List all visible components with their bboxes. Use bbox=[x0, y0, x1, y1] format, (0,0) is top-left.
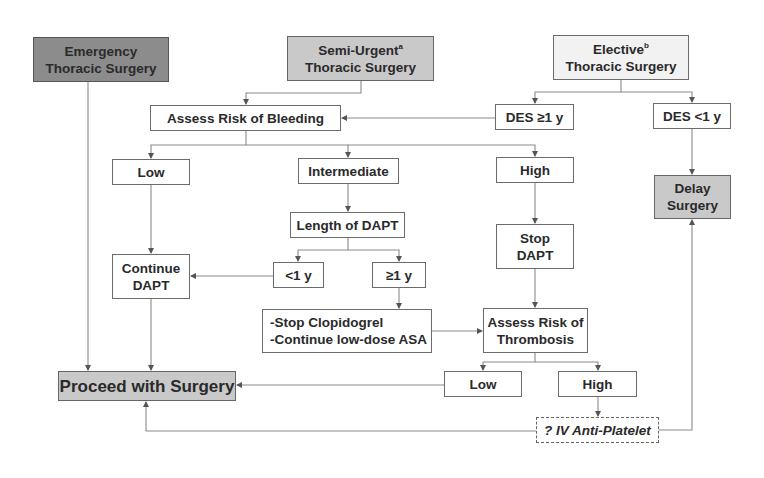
des-lt-1y-node: DES <1 y bbox=[653, 103, 731, 129]
footnote-b: b bbox=[644, 41, 649, 50]
semi-urgent-label: Semi-Urgent bbox=[318, 43, 398, 58]
semi-urgent-line2: Thoracic Surgery bbox=[305, 59, 416, 76]
assess-bleeding-node: Assess Risk of Bleeding bbox=[150, 105, 341, 131]
proceed-surgery-node: Proceed with Surgery bbox=[58, 371, 236, 401]
elective-line1: Electiveb bbox=[593, 41, 649, 58]
thrombosis-high-node: High bbox=[558, 371, 637, 397]
semi-urgent-line1: Semi-Urgenta bbox=[318, 42, 403, 59]
bleeding-low-node: Low bbox=[112, 159, 190, 185]
thrombosis-low-node: Low bbox=[444, 371, 522, 397]
flowchart-canvas: Emergency Thoracic Surgery Semi-Urgenta … bbox=[0, 0, 764, 478]
emergency-surgery-node: Emergency Thoracic Surgery bbox=[33, 37, 169, 82]
elective-line2: Thoracic Surgery bbox=[565, 58, 676, 75]
assess-thrombosis-node: Assess Risk of Thrombosis bbox=[483, 308, 588, 353]
footnote-a: a bbox=[398, 42, 402, 51]
dapt-lt-1y-node: <1 y bbox=[273, 262, 324, 288]
emergency-line2: Thoracic Surgery bbox=[45, 60, 156, 77]
elective-surgery-node: Electiveb Thoracic Surgery bbox=[553, 35, 689, 80]
stop-dapt-node: Stop DAPT bbox=[496, 224, 574, 269]
length-dapt-node: Length of DAPT bbox=[290, 212, 405, 238]
iv-antiplatelet-node: ? IV Anti-Platelet bbox=[536, 417, 659, 443]
semi-urgent-surgery-node: Semi-Urgenta Thoracic Surgery bbox=[287, 36, 434, 81]
bleeding-high-node: High bbox=[496, 157, 574, 183]
continue-dapt-node: Continue DAPT bbox=[112, 254, 190, 299]
des-ge-1y-node: DES ≥1 y bbox=[495, 104, 574, 130]
stop-clopidogrel-node: -Stop Clopidogrel -Continue low-dose ASA bbox=[262, 309, 432, 353]
delay-surgery-node: Delay Surgery bbox=[654, 175, 731, 219]
elective-label: Elective bbox=[593, 42, 644, 57]
dapt-ge-1y-node: ≥1 y bbox=[372, 262, 426, 288]
bleeding-intermediate-node: Intermediate bbox=[298, 158, 399, 184]
emergency-line1: Emergency bbox=[65, 43, 138, 60]
